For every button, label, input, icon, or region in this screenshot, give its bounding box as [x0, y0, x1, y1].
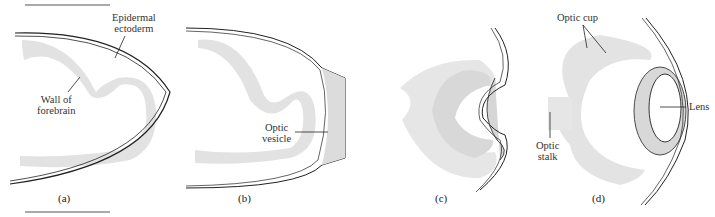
- label-line: Epidermal: [112, 12, 156, 23]
- lens-inner: [649, 74, 681, 142]
- label-line: ectoderm: [112, 23, 156, 34]
- panel-label-b: (b): [238, 192, 251, 204]
- eye-development-diagram: [0, 0, 715, 217]
- panel-label-d: (d): [592, 192, 605, 204]
- label-line: Optic: [262, 122, 291, 133]
- label-line: stalk: [536, 151, 559, 162]
- panel-c-drawing: [400, 28, 508, 192]
- panel-a-drawing: [10, 33, 170, 184]
- label-line: forebrain: [37, 105, 75, 116]
- label-line: Wall of: [37, 94, 75, 105]
- label-optic-stalk: Optic stalk: [536, 140, 559, 162]
- epidermal-leader: [115, 36, 125, 58]
- wall-leader: [68, 77, 80, 92]
- label-line: vesicle: [262, 133, 291, 144]
- label-epidermal-ectoderm: Epidermal ectoderm: [112, 12, 156, 34]
- label-line: Optic: [536, 140, 559, 151]
- panel-label-a: (a): [58, 192, 70, 204]
- panel-b-drawing: [186, 28, 345, 188]
- panel-d-drawing: [548, 18, 688, 205]
- label-optic-vesicle: Optic vesicle: [262, 122, 291, 144]
- panel-label-c: (c): [435, 192, 447, 204]
- label-optic-cup: Optic cup: [557, 12, 598, 23]
- label-lens: Lens: [689, 101, 709, 112]
- label-wall-of-forebrain: Wall of forebrain: [37, 94, 75, 116]
